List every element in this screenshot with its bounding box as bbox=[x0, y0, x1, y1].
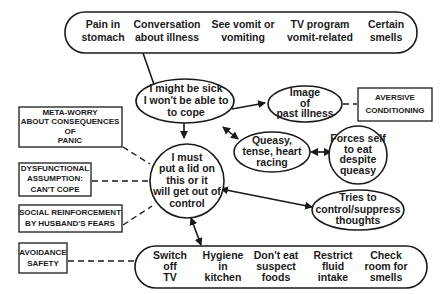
dysfunctional-text: DYSFUNCTIONALASSUMPTION:CAN'T COPE bbox=[21, 164, 90, 194]
triggers-group: Pain instomachConversationabout illnessS… bbox=[65, 12, 417, 53]
arrow-must-tries bbox=[221, 189, 312, 207]
arrow-thought-queasy bbox=[223, 127, 238, 139]
arrow-thought-to-image bbox=[232, 103, 265, 109]
arrow-must-behaviours bbox=[191, 218, 201, 245]
vicious-cycle-diagram: Pain instomachConversationabout illnessS… bbox=[0, 0, 448, 294]
dysfunctional-label: DYSFUNCTIONALASSUMPTION:CAN'T COPE bbox=[21, 164, 90, 194]
trigger-item: Conversationabout illness bbox=[133, 18, 200, 43]
dash-social bbox=[123, 206, 152, 225]
dash-meta bbox=[123, 147, 150, 164]
behaviours-group: SwitchoffTVHygieneinkitchenDon't eatsusp… bbox=[135, 246, 427, 288]
behaviour-item: Checkroom forsmells bbox=[364, 249, 407, 283]
trigger-item: Pain instomach bbox=[81, 18, 124, 43]
trigger-item: Certainsmells bbox=[368, 18, 404, 43]
trigger-item: TV programvomit-related bbox=[287, 18, 353, 43]
